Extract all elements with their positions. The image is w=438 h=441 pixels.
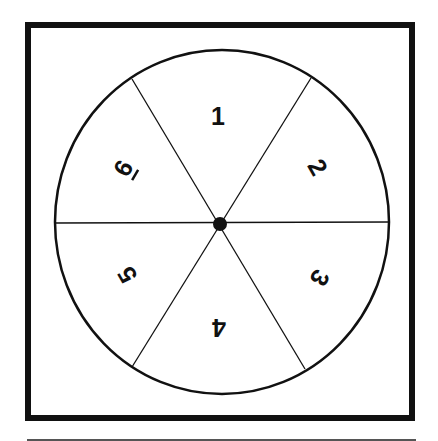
spinner-diagram: 123456 [0, 0, 438, 441]
segment-4: 4 [212, 314, 226, 342]
segment-label: 4 [212, 314, 226, 342]
spinner-hub [213, 217, 227, 231]
segment-1: 1 [211, 102, 225, 130]
segment-label: 1 [211, 102, 225, 130]
